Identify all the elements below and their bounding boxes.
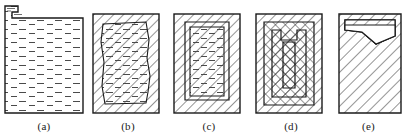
liquid-pipe-d bbox=[283, 42, 295, 88]
panel-stage-e: (e) bbox=[332, 0, 405, 138]
panel-stage-b: (b) bbox=[88, 0, 168, 138]
figure-root: (a) (b) bbox=[0, 0, 405, 138]
caption-stage-e: (e) bbox=[332, 120, 405, 132]
liquid-pool-c bbox=[190, 27, 224, 96]
stage-d-diagram bbox=[250, 0, 332, 120]
liquid-pool-b bbox=[101, 22, 150, 104]
stage-b-diagram bbox=[88, 0, 168, 120]
caption-stage-b: (b) bbox=[88, 120, 168, 132]
casting-body-a bbox=[5, 6, 83, 113]
stage-c-diagram bbox=[168, 0, 250, 120]
caption-stage-a: (a) bbox=[0, 120, 88, 132]
panel-stage-d: (d) bbox=[250, 0, 332, 138]
panel-stage-c: (c) bbox=[168, 0, 250, 138]
caption-stage-d: (d) bbox=[250, 120, 332, 132]
stage-e-diagram bbox=[332, 0, 405, 120]
stage-a-diagram bbox=[0, 0, 88, 120]
panel-stage-a: (a) bbox=[0, 0, 88, 138]
caption-stage-c: (c) bbox=[168, 120, 250, 132]
top-band-e bbox=[345, 20, 395, 25]
